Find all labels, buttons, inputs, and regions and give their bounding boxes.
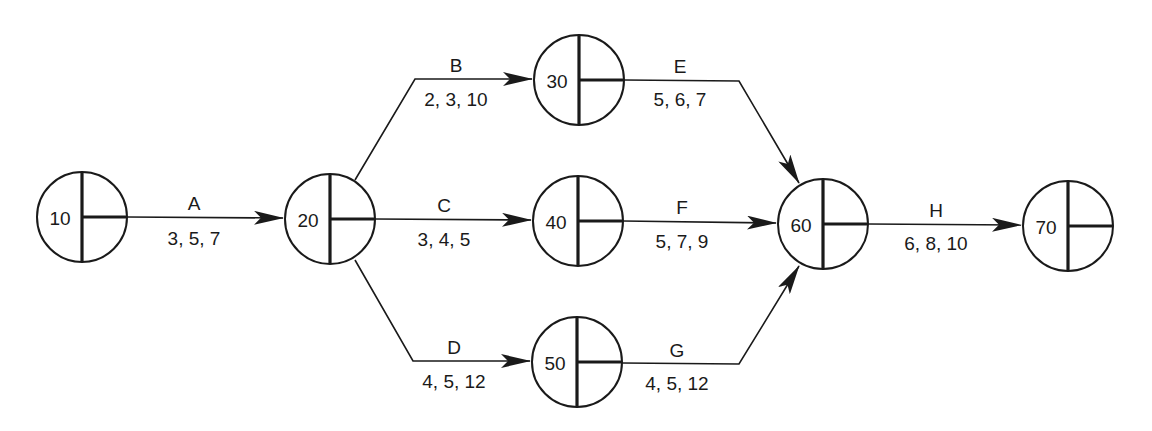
edge-d bbox=[355, 260, 530, 361]
node-40-label: 40 bbox=[545, 212, 566, 233]
activity-b-name: B bbox=[450, 55, 463, 76]
node-30: 30 bbox=[534, 35, 624, 125]
event-nodes: 10 20 30 40 50 bbox=[37, 35, 1113, 407]
node-20-label: 20 bbox=[297, 210, 318, 231]
node-50: 50 bbox=[532, 317, 622, 407]
node-30-label: 30 bbox=[546, 71, 567, 92]
node-20: 20 bbox=[285, 174, 375, 264]
activity-c-times: 3, 4, 5 bbox=[418, 229, 471, 250]
activity-e-name: E bbox=[674, 56, 687, 77]
node-70: 70 bbox=[1023, 181, 1113, 271]
node-70-label: 70 bbox=[1035, 217, 1056, 238]
edge-h bbox=[868, 224, 1021, 225]
pert-network-diagram: A 3, 5, 7 B 2, 3, 10 C 3, 4, 5 D 4, 5, 1… bbox=[0, 0, 1152, 431]
node-40: 40 bbox=[533, 176, 623, 266]
activity-a-times: 3, 5, 7 bbox=[168, 228, 221, 249]
activity-g-name: G bbox=[670, 340, 685, 361]
edge-c bbox=[375, 219, 531, 220]
activity-e-times: 5, 6, 7 bbox=[654, 89, 707, 110]
activity-f-times: 5, 7, 9 bbox=[656, 231, 709, 252]
edge-a bbox=[127, 217, 283, 218]
activity-f-name: F bbox=[676, 197, 688, 218]
activity-a-name: A bbox=[188, 193, 201, 214]
activity-d-name: D bbox=[447, 337, 461, 358]
edge-g bbox=[622, 266, 799, 364]
node-60-label: 60 bbox=[790, 215, 811, 236]
edge-e bbox=[624, 80, 799, 183]
node-10: 10 bbox=[37, 172, 127, 262]
node-10-label: 10 bbox=[49, 208, 70, 229]
activity-c-name: C bbox=[437, 195, 451, 216]
activity-d-times: 4, 5, 12 bbox=[422, 371, 485, 392]
activity-b-times: 2, 3, 10 bbox=[424, 89, 487, 110]
activity-h-name: H bbox=[929, 200, 943, 221]
node-50-label: 50 bbox=[544, 353, 565, 374]
node-60: 60 bbox=[778, 179, 868, 269]
activity-g-times: 4, 5, 12 bbox=[645, 373, 708, 394]
activity-h-times: 6, 8, 10 bbox=[904, 233, 967, 254]
edge-f bbox=[623, 221, 776, 223]
